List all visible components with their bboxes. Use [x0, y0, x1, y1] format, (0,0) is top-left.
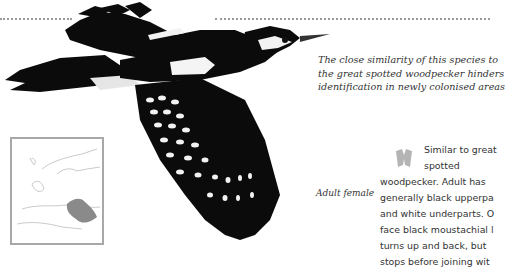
description-line: stops before joining wit — [380, 254, 494, 270]
description-line: face black moustachial l — [380, 222, 494, 238]
europe-map-icon — [12, 139, 102, 243]
illustration-label: Adult female — [316, 188, 374, 198]
caption-line: the great spotted woodpecker hinders — [318, 67, 490, 81]
species-caption: The close similarity of this species to … — [318, 53, 490, 94]
description-line: spotted — [424, 158, 460, 174]
caption-line: The close similarity of this species to — [318, 53, 490, 67]
caption-line: identification in newly colonised areas — [318, 80, 490, 94]
range-map — [10, 137, 104, 245]
description-line: turns up and back, but — [380, 238, 494, 254]
description-line: Similar to great — [424, 142, 497, 158]
description-line: and white underparts. O — [380, 206, 494, 222]
binoculars-icon — [394, 147, 414, 169]
description-line: generally black upperpa — [380, 190, 494, 206]
description-line: woodpecker. Adult has — [380, 174, 494, 190]
